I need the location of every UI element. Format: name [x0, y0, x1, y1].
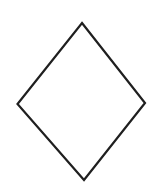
drawing-canvas — [0, 0, 156, 190]
diamond-figure — [0, 0, 156, 190]
